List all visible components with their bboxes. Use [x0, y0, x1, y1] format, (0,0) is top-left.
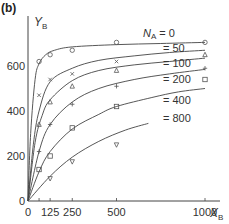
- chart-plot: 012525050010000200400600YBXB NA = 0= 50=…: [0, 0, 229, 224]
- x-marker-icon: [115, 60, 119, 64]
- triangle-up-marker-icon: [114, 68, 118, 72]
- triangle-up-marker-icon: [48, 100, 52, 104]
- triangle-down-marker-icon: [70, 160, 74, 164]
- square-marker-icon: [203, 77, 207, 81]
- triangle-up-marker-icon: [203, 52, 207, 56]
- curve-line: [28, 123, 148, 201]
- circle-marker-icon: [48, 53, 52, 57]
- y-tick-label: 400: [7, 105, 25, 117]
- triangle-down-marker-icon: [48, 177, 52, 181]
- series-label-3: = 200: [163, 73, 191, 85]
- triangle-up-marker-icon: [70, 84, 74, 88]
- series-label-4: = 400: [163, 94, 191, 106]
- y-tick-label: 600: [7, 60, 25, 72]
- series-label-2: = 100: [163, 57, 191, 69]
- x-tick-label: 500: [107, 206, 125, 218]
- x-marker-icon: [70, 72, 74, 76]
- x-marker-icon: [37, 93, 41, 97]
- circle-marker-icon: [70, 48, 74, 52]
- y-axis-title: YB: [34, 15, 47, 31]
- plus-marker-icon: [114, 84, 118, 88]
- x-tick-label: 0: [25, 206, 31, 218]
- y-tick-label: 200: [7, 150, 25, 162]
- plus-marker-icon: [37, 149, 41, 153]
- curve-line: [28, 69, 205, 201]
- circle-marker-icon: [114, 40, 118, 44]
- triangle-down-marker-icon: [114, 143, 118, 147]
- series-label-1: = 50: [163, 42, 185, 54]
- x-tick-label: 125: [41, 206, 59, 218]
- x-axis-title: XB: [209, 206, 223, 222]
- series-labels: NA = 0= 50= 100= 200= 400= 800: [143, 27, 191, 124]
- axes: 012525050010000200400600YBXB: [7, 15, 224, 222]
- y-tick-label: 0: [19, 195, 25, 207]
- x-marker-icon: [48, 78, 52, 82]
- series-label-0: NA = 0: [143, 27, 175, 41]
- x-tick-label: 250: [63, 206, 81, 218]
- series-label-5: = 800: [163, 112, 191, 124]
- square-marker-icon: [48, 154, 52, 158]
